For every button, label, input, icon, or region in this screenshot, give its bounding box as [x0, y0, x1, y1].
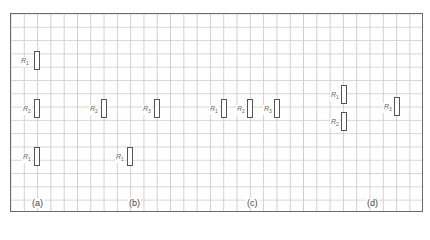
panel-b-resistor-r1-icon [127, 147, 133, 166]
panel-a-resistor-label: R2 [22, 105, 32, 115]
panel-c-resistor-label: R1 [209, 105, 219, 115]
panel-c-resistor-r1-icon [221, 99, 227, 118]
panel-b-resistor-label: R1 [115, 153, 125, 163]
panel-d-resistor-r3-icon [394, 97, 400, 116]
panel-a-resistor-r2-icon [34, 99, 40, 118]
panel-b-resistor-label: R2 [89, 105, 99, 115]
panel-c-resistor-r2-icon [247, 99, 253, 118]
panel-b-resistor-label: R3 [142, 105, 152, 115]
panel-d-resistor-r2-icon [341, 112, 347, 131]
panel-b-caption: (b) [128, 198, 141, 208]
panel-b-resistor-r3-icon [154, 99, 160, 118]
panel-d-resistor-label: R2 [330, 118, 340, 128]
panel-c-caption: (c) [246, 198, 259, 208]
panel-a-caption: (a) [31, 198, 44, 208]
panel-c-resistor-label: R2 [236, 105, 246, 115]
panel-d-resistor-label: R3 [383, 103, 393, 113]
panel-b-resistor-r2-icon [101, 99, 107, 118]
panel-a-resistor-r1-icon [34, 147, 40, 166]
panel-d-resistor-label: R1 [330, 91, 340, 101]
panel-a-resistor-r1-icon [34, 51, 40, 70]
panel-d-resistor-r1-icon [341, 85, 347, 104]
panel-d-caption: (d) [366, 198, 379, 208]
panel-a-resistor-label: R1 [22, 153, 32, 163]
panel-c-resistor-label: R3 [263, 105, 273, 115]
panel-c-resistor-r3-icon [274, 99, 280, 118]
panel-a-resistor-label: R1 [20, 57, 30, 67]
